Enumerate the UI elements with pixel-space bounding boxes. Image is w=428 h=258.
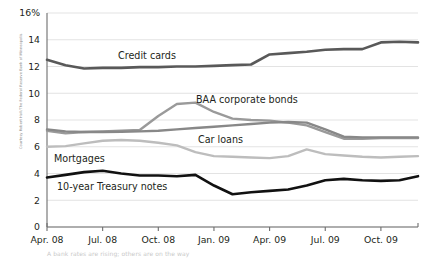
y-tick-label-12: 12 <box>28 61 40 72</box>
x-tick-label-0: Apr. 08 <box>31 234 64 245</box>
y-tick-label-16: 16% <box>19 7 40 18</box>
y-tick-label-8: 8 <box>34 114 40 125</box>
series-label-10-year-treasury-notes: 10-year Treasury notes <box>57 181 167 192</box>
series-label-car-loans: Car loans <box>198 134 243 145</box>
y-tick-label-4: 4 <box>34 168 40 179</box>
y-tick-label-0: 0 <box>34 221 40 232</box>
y-axis-labels-group: 0246810121416% <box>19 7 47 232</box>
x-tick-label-4: Apr. 09 <box>253 234 286 245</box>
x-tick-label-5: Jul. 09 <box>310 234 340 245</box>
series-line-credit-cards <box>47 42 418 69</box>
x-tick-label-1: Jul. 08 <box>87 234 117 245</box>
x-axis-group: Apr. 08Jul. 08Oct. 08Jan. 09Apr. 09Jul. … <box>31 223 418 245</box>
y-tick-label-10: 10 <box>28 88 40 99</box>
series-label-mortgages: Mortgages <box>54 153 105 164</box>
x-tick-label-6: Oct. 09 <box>364 234 398 245</box>
y-tick-label-14: 14 <box>28 34 40 45</box>
series-label-baa-corporate-bonds: BAA corporate bonds <box>196 94 298 105</box>
y-tick-label-2: 2 <box>34 195 40 206</box>
series-paths-group <box>47 42 418 194</box>
chart-footnote: A bank rates are rising; others are on t… <box>47 250 189 257</box>
series-label-credit-cards: Credit cards <box>118 50 176 61</box>
x-tick-label-2: Oct. 08 <box>141 234 175 245</box>
image-credit: Courtesy Robert Hall/The Federal Reserve… <box>19 39 23 149</box>
y-tick-label-6: 6 <box>34 141 40 152</box>
interest-rates-chart: Courtesy Robert Hall/The Federal Reserve… <box>0 0 428 258</box>
x-tick-label-3: Jan. 09 <box>197 234 230 245</box>
chart-plot-area: 0246810121416% Apr. 08Jul. 08Oct. 08Jan.… <box>0 0 428 258</box>
